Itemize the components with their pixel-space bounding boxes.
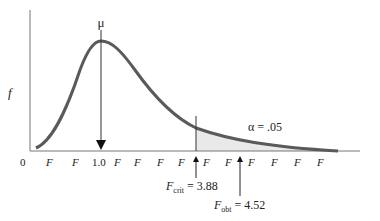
tick-f: F: [270, 156, 278, 168]
tick-origin: 0: [20, 156, 26, 168]
tick-f: F: [224, 156, 232, 168]
mean-label: μ: [98, 15, 105, 30]
tick-f: F: [71, 156, 79, 168]
tick-labels: 0 F F 1.0 F F F F F F F F F F: [20, 156, 324, 168]
fobt-label: Fobt = 4.52: [213, 198, 265, 214]
mean-arrow-icon: [96, 140, 106, 150]
alpha-label: α = .05: [248, 120, 282, 134]
f-distribution-chart: μ f α = .05 0 F F 1.0 F F F F F F F F F …: [0, 0, 380, 221]
fobt-arrow-icon: [237, 156, 243, 162]
tick-mean: 1.0: [92, 156, 106, 168]
tick-f: F: [177, 156, 185, 168]
tick-f: F: [133, 156, 141, 168]
distribution-curve: [36, 41, 338, 151]
fcrit-arrow-icon: [193, 156, 199, 162]
tick-f: F: [247, 156, 255, 168]
tick-f: F: [293, 156, 301, 168]
tick-f: F: [202, 156, 210, 168]
tick-f: F: [45, 156, 53, 168]
y-axis-label: f: [8, 85, 14, 100]
tick-f: F: [316, 156, 324, 168]
tick-f: F: [156, 156, 164, 168]
tick-f: F: [113, 156, 121, 168]
fcrit-label: Fcrit = 3.88: [165, 179, 218, 195]
